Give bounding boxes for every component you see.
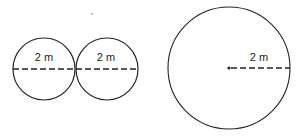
stray-mark — [91, 13, 92, 14]
circle-comparison-diagram: 2 m 2 m 2 m — [0, 0, 302, 139]
diameter-label: 2 m — [97, 51, 115, 63]
radius-label: 2 m — [250, 51, 268, 63]
center-point — [227, 66, 230, 69]
large-circle: 2 m — [168, 7, 290, 129]
diameter-label: 2 m — [35, 51, 53, 63]
small-circle-right: 2 m — [76, 38, 138, 100]
small-circle-left: 2 m — [13, 38, 75, 100]
